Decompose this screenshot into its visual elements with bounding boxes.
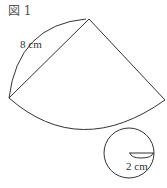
sector-radius-label: 8 cm xyxy=(20,38,42,50)
circle-radius-label: 2 cm xyxy=(126,160,148,172)
cone-net-diagram: 8 cm 2 cm xyxy=(0,0,167,188)
circle-radius-brace xyxy=(130,153,153,158)
sector-right-radius xyxy=(89,19,165,100)
sector-arc xyxy=(9,98,165,130)
